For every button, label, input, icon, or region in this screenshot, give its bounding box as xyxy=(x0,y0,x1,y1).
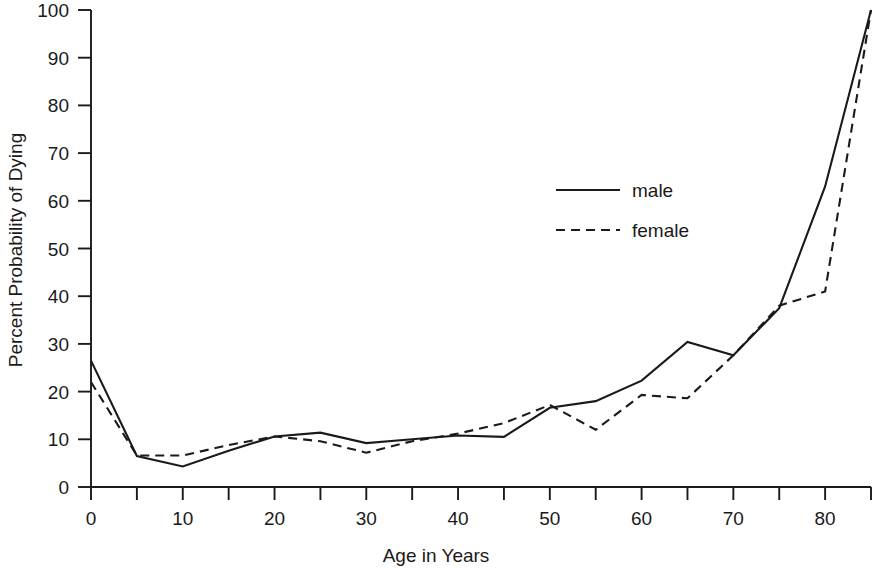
y-tick-label-80: 80 xyxy=(48,95,69,116)
y-axis-tick-labels: 0102030405060708090100 xyxy=(37,0,69,498)
y-tick-label-40: 40 xyxy=(48,286,69,307)
y-tick-label-70: 70 xyxy=(48,143,69,164)
x-axis-tick-labels: 01020304050607080 xyxy=(86,508,836,529)
y-axis-ticks xyxy=(78,10,91,487)
y-tick-label-90: 90 xyxy=(48,48,69,69)
y-tick-label-100: 100 xyxy=(37,0,69,21)
chart-figure: 0102030405060708090100 01020304050607080… xyxy=(0,0,872,571)
series-line-male xyxy=(91,10,871,466)
x-tick-label-50: 50 xyxy=(539,508,560,529)
chart-legend: male female xyxy=(556,180,689,241)
y-tick-label-0: 0 xyxy=(58,477,69,498)
line-chart: 0102030405060708090100 01020304050607080… xyxy=(0,0,872,571)
legend-label-male: male xyxy=(632,180,673,201)
x-tick-label-80: 80 xyxy=(815,508,836,529)
y-tick-label-20: 20 xyxy=(48,382,69,403)
y-tick-label-60: 60 xyxy=(48,191,69,212)
x-tick-label-40: 40 xyxy=(447,508,468,529)
legend-label-female: female xyxy=(632,220,689,241)
x-tick-label-60: 60 xyxy=(631,508,652,529)
y-tick-label-50: 50 xyxy=(48,239,69,260)
x-axis-ticks xyxy=(91,487,871,500)
chart-axes: 0102030405060708090100 01020304050607080 xyxy=(37,0,871,529)
chart-series xyxy=(91,10,871,466)
y-axis-title: Percent Probability of Dying xyxy=(5,133,26,367)
x-tick-label-10: 10 xyxy=(172,508,193,529)
x-tick-label-20: 20 xyxy=(264,508,285,529)
series-line-female xyxy=(91,10,871,456)
x-tick-label-30: 30 xyxy=(356,508,377,529)
x-tick-label-0: 0 xyxy=(86,508,97,529)
x-tick-label-70: 70 xyxy=(723,508,744,529)
y-tick-label-30: 30 xyxy=(48,334,69,355)
x-axis-title: Age in Years xyxy=(383,545,490,566)
y-tick-label-10: 10 xyxy=(48,429,69,450)
